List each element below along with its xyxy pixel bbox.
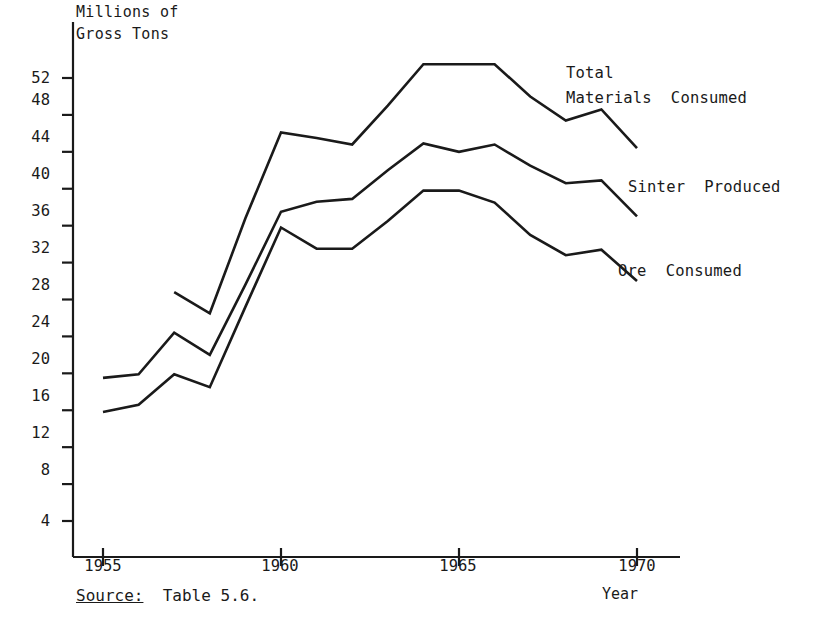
chart-series-group (103, 64, 637, 412)
chart-axes (62, 22, 680, 566)
chart-canvas (0, 0, 822, 630)
series-line-total-materials-consumed (174, 64, 637, 313)
chart-figure: Millions of Gross Tons 52 48 44 40 36 32… (0, 0, 822, 630)
series-line-ore-consumed (103, 191, 637, 413)
series-line-sinter-produced (103, 144, 637, 378)
y-tick-marks (62, 78, 73, 521)
